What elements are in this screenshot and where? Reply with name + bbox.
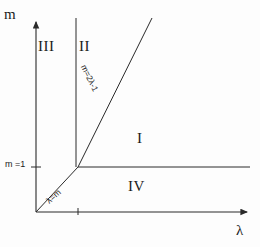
region-label-four: IV bbox=[128, 178, 145, 195]
x-axis-label: λ bbox=[236, 222, 243, 239]
region-label-two: II bbox=[79, 38, 90, 55]
figure-canvas: m λ m =1 III II I IV m=2λ-1 λ=m bbox=[0, 0, 260, 247]
region-label-three: III bbox=[38, 38, 55, 55]
region-label-one: I bbox=[137, 130, 143, 147]
y-axis-label: m bbox=[4, 6, 16, 23]
y-axis-tick-label: m =1 bbox=[5, 159, 25, 169]
